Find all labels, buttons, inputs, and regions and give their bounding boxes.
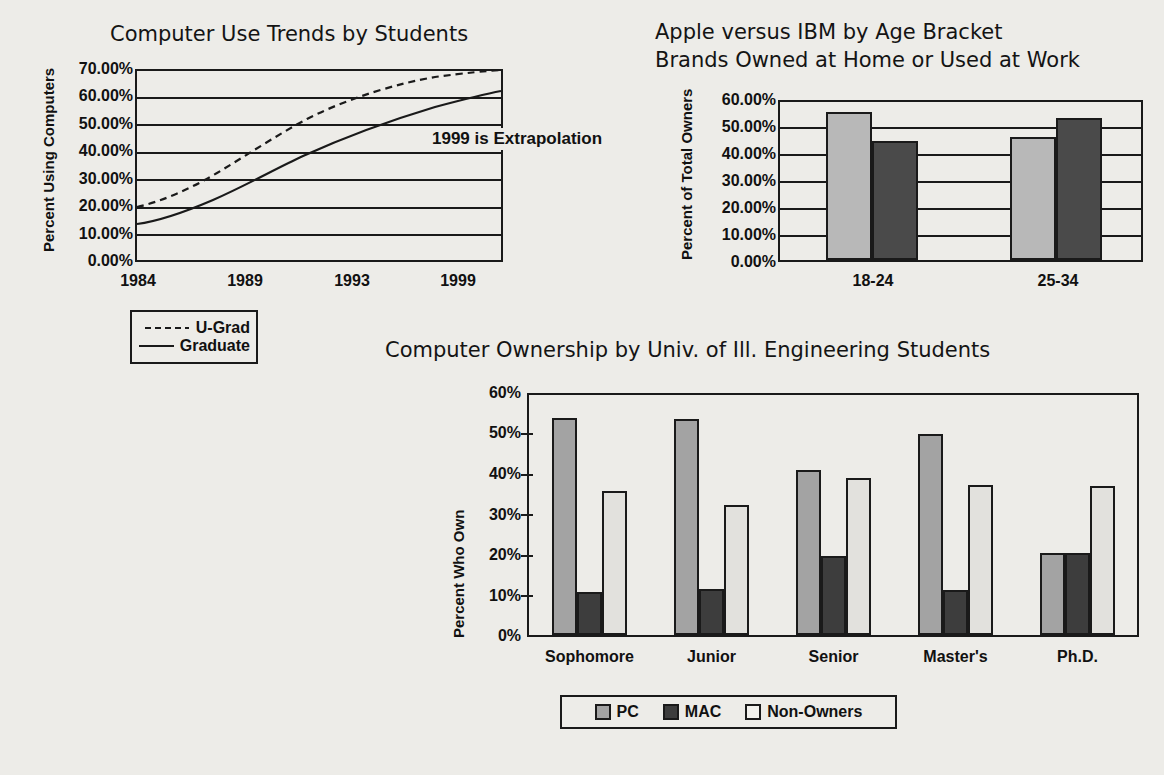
chart3-ytick-20: 20%: [466, 546, 521, 564]
chart3-bar-nonowners-phd: [1090, 486, 1115, 635]
chart3-bar-nonowners-masters: [968, 485, 993, 635]
chart-apple-versus-ibm: Apple versus IBM by Age Bracket Brands O…: [640, 0, 1164, 300]
chart2-title-line2: Brands Owned at Home or Used at Work: [655, 48, 1080, 72]
chart3-bar-pc-junior: [674, 419, 699, 635]
chart3-ytick-10: 10%: [466, 587, 521, 605]
chart3-bar-mac-phd: [1065, 553, 1090, 635]
chart1-extrapolation-annotation: 1999 is Extrapolation: [430, 128, 604, 150]
chart3-ytick-30: 30%: [466, 506, 521, 524]
chart1-title: Computer Use Trends by Students: [110, 22, 468, 46]
chart3-bar-pc-sophomore: [552, 418, 577, 635]
chart2-bar-ibm-18-24: [872, 141, 918, 260]
chart2-bar-ibm-25-34: [1056, 118, 1102, 260]
chart1-series-graduate-line: [137, 91, 501, 224]
chart2-bar-apple-25-34: [1010, 137, 1056, 260]
chart3-ytick-40: 40%: [466, 465, 521, 483]
chart1-xtick-1984: 1984: [108, 272, 168, 290]
chart2-gridline-60: [778, 100, 1143, 102]
chart2-right-axis-line: [1141, 100, 1143, 262]
chart3-legend-label-pc: PC: [617, 703, 639, 721]
chart3-xtick-junior: Junior: [649, 648, 774, 666]
chart2-xtick-18-24: 18-24: [833, 272, 913, 290]
chart3-bar-pc-masters: [918, 434, 943, 635]
chart1-xtick-1993: 1993: [322, 272, 382, 290]
chart3-legend-item-pc[interactable]: PC: [595, 703, 639, 721]
chart3-bar-mac-senior: [821, 556, 846, 635]
chart2-ytick-30: 30.00%: [692, 172, 776, 190]
chart3-bar-pc-senior: [796, 470, 821, 635]
chart2-ytick-0: 0.00%: [692, 253, 776, 271]
chart3-ytick-50: 50%: [466, 424, 521, 442]
chart2-ytick-40: 40.00%: [692, 145, 776, 163]
chart2-ytick-60: 60.00%: [692, 91, 776, 109]
chart3-legend-label-nonowners: Non-Owners: [767, 703, 862, 721]
chart1-plot-area: [135, 69, 503, 262]
chart3-bar-mac-junior: [699, 589, 724, 635]
chart1-xtick-1999: 1999: [428, 272, 488, 290]
chart3-y-axis-label-text: Percent Who Own: [450, 510, 467, 638]
chart3-legend: PC MAC Non-Owners: [560, 695, 897, 729]
chart2-ytick-10: 10.00%: [692, 226, 776, 244]
chart1-ytick-10: 10.00%: [55, 225, 133, 243]
chart1-ytick-70: 70.00%: [55, 60, 133, 78]
chart3-y-axis-line: [527, 393, 529, 637]
chart3-bar-nonowners-sophomore: [602, 491, 627, 635]
chart1-ytick-50: 50.00%: [55, 115, 133, 133]
chart3-xtick-sophomore: Sophomore: [527, 648, 652, 666]
chart3-legend-item-mac[interactable]: MAC: [663, 703, 721, 721]
chart3-ytick-60: 60%: [466, 384, 521, 402]
chart1-ytick-20: 20.00%: [55, 197, 133, 215]
pc-swatch-icon: [595, 704, 611, 720]
chart3-x-axis-line: [527, 635, 1139, 637]
chart1-series-svg: [135, 69, 503, 262]
chart-computer-use-trends: Computer Use Trends by Students Percent …: [0, 0, 640, 380]
chart2-title-line1: Apple versus IBM by Age Bracket: [655, 20, 1002, 44]
chart3-bar-mac-sophomore: [577, 592, 602, 635]
chart2-xtick-25-34: 25-34: [1018, 272, 1098, 290]
chart1-ytick-0: 0.00%: [55, 252, 133, 270]
nonowners-swatch-icon: [745, 704, 761, 720]
chart3-ytick-0: 0%: [466, 627, 521, 645]
chart2-ytick-20: 20.00%: [692, 199, 776, 217]
chart3-right-axis-line: [1137, 393, 1139, 637]
chart2-y-axis-line: [778, 100, 780, 262]
chart3-xtick-phd: Ph.D.: [1015, 648, 1140, 666]
chart3-legend-item-nonowners[interactable]: Non-Owners: [745, 703, 862, 721]
chart1-ytick-30: 30.00%: [55, 170, 133, 188]
chart3-xtick-masters: Master's: [893, 648, 1018, 666]
chart-computer-ownership-engineering: Computer Ownership by Univ. of Ill. Engi…: [0, 330, 1164, 775]
chart1-ytick-40: 40.00%: [55, 142, 133, 160]
chart2-gridline-0: [778, 260, 1143, 262]
mac-swatch-icon: [663, 704, 679, 720]
chart3-legend-label-mac: MAC: [685, 703, 721, 721]
chart2-ytick-50: 50.00%: [692, 118, 776, 136]
chart3-y-axis-title: Percent Who Own: [450, 510, 468, 638]
chart3-plot-area: [527, 393, 1139, 637]
chart3-bar-mac-masters: [943, 590, 968, 635]
chart1-ytick-60: 60.00%: [55, 87, 133, 105]
chart3-title: Computer Ownership by Univ. of Ill. Engi…: [385, 338, 990, 362]
chart2-plot-area: [778, 100, 1143, 262]
chart3-xtick-senior: Senior: [771, 648, 896, 666]
chart3-bar-pc-phd: [1040, 553, 1065, 635]
chart2-bar-apple-18-24: [826, 112, 872, 260]
chart1-xtick-1989: 1989: [215, 272, 275, 290]
chart3-bar-nonowners-junior: [724, 505, 749, 635]
chart3-bar-nonowners-senior: [846, 478, 871, 635]
chart3-top-border: [527, 393, 1139, 395]
